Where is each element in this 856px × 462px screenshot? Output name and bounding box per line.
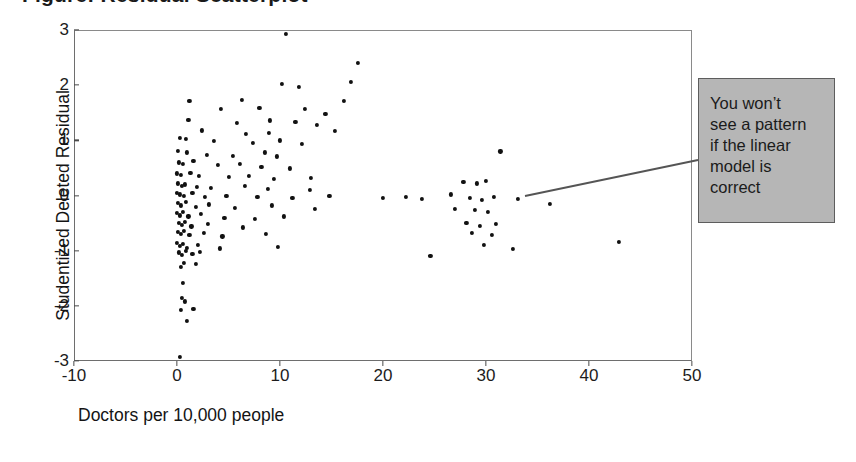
scatter-point: [478, 224, 482, 228]
scatter-point: [251, 140, 255, 144]
scatter-point: [475, 181, 479, 185]
x-axis-tick-label: 20: [374, 366, 393, 386]
scatter-point: [278, 138, 282, 142]
scatter-point: [182, 229, 186, 233]
scatter-point: [182, 261, 186, 265]
scatter-point: [480, 198, 484, 202]
scatter-point: [272, 177, 276, 181]
scatter-point: [233, 206, 237, 210]
y-axis-tick-mark: [74, 195, 79, 196]
scatter-point: [267, 131, 271, 135]
scatter-point: [486, 210, 490, 214]
x-axis-tick-mark: [176, 361, 177, 366]
scatter-point: [288, 166, 292, 170]
scatter-point: [420, 197, 424, 201]
x-axis-tick-label: 50: [683, 366, 702, 386]
scatter-point: [511, 247, 515, 251]
scatter-point: [190, 252, 194, 256]
x-axis-tick-label: 10: [271, 366, 290, 386]
scatter-point: [191, 307, 195, 311]
scatter-point: [308, 188, 312, 192]
scatter-point: [188, 171, 192, 175]
scatter-point: [275, 154, 279, 158]
y-axis-tick-mark: [74, 140, 79, 141]
scatter-point: [300, 142, 304, 146]
scatter-point: [179, 172, 183, 176]
scatter-point: [184, 200, 188, 204]
scatter-point: [268, 118, 272, 122]
scatter-point: [240, 98, 244, 102]
scatter-point: [180, 223, 184, 227]
scatter-point: [226, 175, 230, 179]
scatter-point: [284, 32, 288, 36]
scatter-point: [461, 180, 465, 184]
x-axis-tick-label: -10: [62, 366, 87, 386]
scatter-point: [381, 196, 385, 200]
scatter-point: [235, 121, 239, 125]
y-axis-label: Studentized Deleted Residual: [53, 46, 74, 366]
scatter-point: [181, 210, 185, 214]
scatter-point: [332, 129, 336, 133]
scatter-point: [453, 207, 457, 211]
scatter-point: [179, 232, 183, 236]
scatter-point: [220, 234, 224, 238]
scatter-point: [262, 150, 266, 154]
scatter-point: [202, 231, 206, 235]
figure-screenshot: Figure: Residual Scatterplot -3-2-10123 …: [0, 0, 856, 462]
x-axis-tick-mark: [691, 361, 692, 366]
annotation-callout: You won’t see a pattern if the linear mo…: [698, 78, 835, 223]
scatter-point: [184, 249, 188, 253]
scatter-point: [185, 150, 189, 154]
scatter-point: [179, 265, 183, 269]
scatter-point: [193, 262, 197, 266]
scatter-point: [266, 187, 270, 191]
scatter-point: [241, 225, 245, 229]
scatter-point: [222, 215, 226, 219]
scatter-point: [296, 85, 300, 89]
x-axis-tick-mark: [485, 361, 486, 366]
scatter-point: [187, 99, 191, 103]
scatter-point: [181, 281, 185, 285]
y-axis-tick-mark: [74, 85, 79, 86]
scatter-point: [270, 203, 274, 207]
scatter-point: [449, 192, 453, 196]
scatter-point: [216, 163, 220, 167]
scatter-point: [282, 214, 286, 218]
x-axis-tick-label: 0: [172, 366, 181, 386]
scatter-point: [186, 118, 190, 122]
scatter-point: [349, 80, 353, 84]
scatter-point: [181, 161, 185, 165]
scatter-point: [209, 186, 213, 190]
x-axis-tick-mark: [73, 361, 74, 366]
scatter-point: [263, 232, 267, 236]
scatter-point: [617, 240, 621, 244]
scatter-point: [315, 123, 319, 127]
scatter-point: [187, 233, 191, 237]
scatter-point: [219, 107, 223, 111]
scatter-point: [178, 354, 182, 358]
scatter-point: [313, 207, 317, 211]
scatter-point: [244, 132, 248, 136]
scatter-point: [185, 319, 189, 323]
scatter-point: [198, 250, 202, 254]
scatter-point: [309, 176, 313, 180]
scatter-point: [179, 308, 183, 312]
scatter-point: [323, 112, 327, 116]
scatter-point: [199, 212, 203, 216]
scatter-point: [205, 153, 209, 157]
x-axis-tick-mark: [279, 361, 280, 366]
scatter-point: [327, 194, 331, 198]
scatter-point: [290, 196, 294, 200]
scatter-point: [484, 179, 488, 183]
scatter-point: [183, 220, 187, 224]
scatter-point: [464, 221, 468, 225]
scatter-point: [469, 231, 473, 235]
scatter-plot-area: [74, 30, 692, 361]
scatter-point: [189, 224, 193, 228]
scatter-point: [186, 214, 190, 218]
scatter-point: [182, 193, 186, 197]
scatter-point: [190, 191, 194, 195]
scatter-point: [196, 243, 200, 247]
scatter-point: [482, 243, 486, 247]
scatter-point: [178, 213, 182, 217]
